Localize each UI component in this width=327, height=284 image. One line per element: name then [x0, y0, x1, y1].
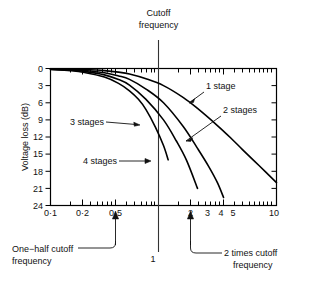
x-tick-label-3: 3	[205, 208, 210, 218]
x-tick-label-4: 4	[218, 208, 223, 218]
series-label-4-stages: 4 stages	[83, 156, 118, 166]
curve-4-stages	[51, 69, 169, 159]
y-axis-tick-labels: 0 3 6 9 12 15 18 21 24	[33, 64, 43, 211]
y-tick-label-0: 0	[38, 64, 43, 74]
y-tick-label-3: 3	[38, 81, 43, 91]
figure-voltage-loss-vs-frequency: 0·1 0·2 0·5 2 3 4 5 10 0 3 6 9 12 15 18 …	[0, 0, 327, 284]
chart-canvas: 0·1 0·2 0·5 2 3 4 5 10 0 3 6 9 12 15 18 …	[0, 0, 327, 284]
x-tick-label-0-5: 0·5	[109, 208, 122, 218]
x-tick-label-0-2: 0·2	[76, 208, 89, 218]
y-tick-label-15: 15	[33, 149, 43, 159]
one-half-cutoff-label-line2: frequency	[12, 256, 52, 266]
cutoff-frequency-label-line1: Cutoff	[147, 8, 171, 18]
bottom-callout-arrows	[78, 211, 222, 253]
y-tick-label-9: 9	[38, 115, 43, 125]
x-tick-label-2: 2	[188, 208, 193, 218]
y-tick-label-24: 24	[33, 201, 43, 211]
cutoff-frequency-label-line2: frequency	[139, 20, 179, 30]
two-times-cutoff-label-line2: frequency	[233, 260, 273, 270]
cutoff-frequency-label: Cutoff frequency	[139, 8, 179, 30]
cutoff-axis-value-label: 1	[150, 254, 155, 264]
y-axis-title: Voltage loss (dB)	[20, 103, 30, 171]
one-half-cutoff-label-line1: One−half cutoff	[12, 244, 74, 254]
series-label-1-stage: 1 stage	[206, 81, 236, 91]
x-tick-label-10: 10	[269, 208, 279, 218]
two-times-cutoff-label-line1: 2 times cutoff	[224, 248, 278, 258]
y-tick-label-21: 21	[33, 184, 43, 194]
one-half-cutoff-label: One−half cutoff frequency	[12, 244, 74, 266]
y-tick-label-6: 6	[38, 98, 43, 108]
series-label-3-stages: 3 stages	[70, 117, 105, 127]
plot-frame	[51, 69, 277, 206]
x-axis-tick-labels: 0·1 0·2 0·5 2 3 4 5 10	[44, 208, 279, 218]
x-tick-label-0-1: 0·1	[44, 208, 57, 218]
two-times-cutoff-label: 2 times cutoff frequency	[224, 248, 278, 270]
x-tick-label-5: 5	[230, 208, 235, 218]
y-tick-label-18: 18	[33, 167, 43, 177]
y-axis-ticks	[46, 69, 277, 206]
series-label-2-stages: 2 stages	[223, 105, 258, 115]
x-axis-ticks-bottom	[51, 200, 277, 206]
y-tick-label-12: 12	[33, 132, 43, 142]
